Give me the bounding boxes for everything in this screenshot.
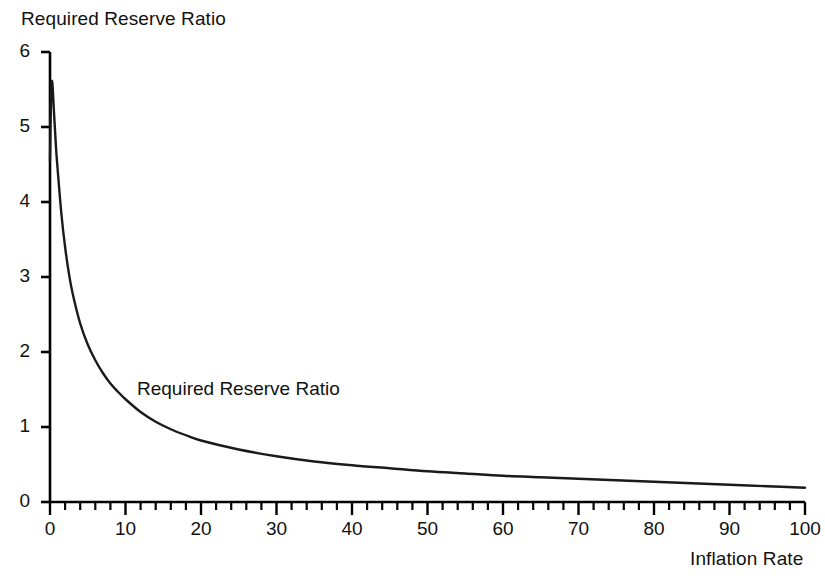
x-tick-label: 0 — [20, 518, 80, 540]
y-tick-label: 1 — [2, 415, 30, 437]
axis-lines — [50, 52, 805, 502]
plot-canvas — [0, 0, 825, 581]
chart-figure: Required Reserve Ratio 01020304050607080… — [0, 0, 825, 581]
x-tick-label: 80 — [624, 518, 684, 540]
x-tick-label: 70 — [549, 518, 609, 540]
y-tick-label: 4 — [2, 190, 30, 212]
x-tick-label: 30 — [247, 518, 307, 540]
x-axis-major-ticks — [50, 502, 805, 515]
series-line-required-reserve-ratio — [50, 81, 805, 488]
y-axis-major-ticks — [41, 52, 50, 502]
y-tick-label: 5 — [2, 115, 30, 137]
y-tick-label: 3 — [2, 265, 30, 287]
y-tick-label: 2 — [2, 340, 30, 362]
x-tick-label: 10 — [96, 518, 156, 540]
x-tick-label: 50 — [398, 518, 458, 540]
x-tick-label: 100 — [775, 518, 825, 540]
series-annotation-label: Required Reserve Ratio — [137, 378, 340, 400]
y-tick-label: 0 — [2, 490, 30, 512]
y-tick-label: 6 — [2, 40, 30, 62]
x-tick-label: 90 — [700, 518, 760, 540]
x-tick-label: 40 — [322, 518, 382, 540]
x-axis-title: Inflation Rate — [690, 548, 803, 570]
x-tick-label: 20 — [171, 518, 231, 540]
x-tick-label: 60 — [473, 518, 533, 540]
